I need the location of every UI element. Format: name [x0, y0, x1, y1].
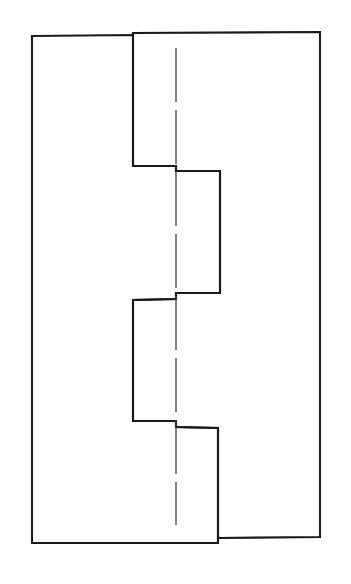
technical-drawing-canvas — [0, 0, 351, 584]
joint-profile-outline — [32, 35, 220, 543]
drawing-svg-root — [0, 0, 351, 584]
